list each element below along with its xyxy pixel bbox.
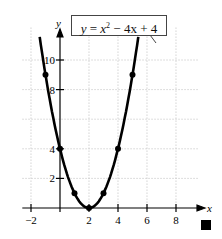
y-tick-label: 8 [50,84,56,96]
x-tick-label: 8 [173,214,179,226]
y-tick-label: 2 [50,172,56,184]
x-tick-label: 2 [86,214,92,226]
x-tick-label: 4 [115,214,121,226]
x-axis-label: x [206,202,212,214]
x-tick-label: 6 [144,214,150,226]
eq-term2: 4x [124,21,137,36]
y-axis-label: y [55,17,61,29]
data-point [43,72,49,78]
eq-y: y [81,21,87,36]
eq-minus: − [113,21,120,36]
eq-exponent: 2 [106,21,110,30]
x-axis-arrow-icon [197,205,205,211]
eq-plus: + [140,21,147,36]
x-tick-label: −2 [25,214,37,226]
data-point [130,72,136,78]
data-point [86,205,92,211]
data-point [101,190,107,196]
eq-equals: = [90,21,97,36]
data-point [72,190,78,196]
y-axis-arrow-icon [57,29,63,37]
equation-label: y = x2 − 4x + 4 [71,15,167,36]
y-tick-label: 10 [44,54,56,66]
data-point [57,146,63,152]
axis-ticks: −2246824810 [25,54,179,226]
end-marker-square [201,220,211,230]
eq-const: 4 [151,21,158,36]
data-point [115,146,121,152]
y-tick-label: 4 [50,143,56,155]
